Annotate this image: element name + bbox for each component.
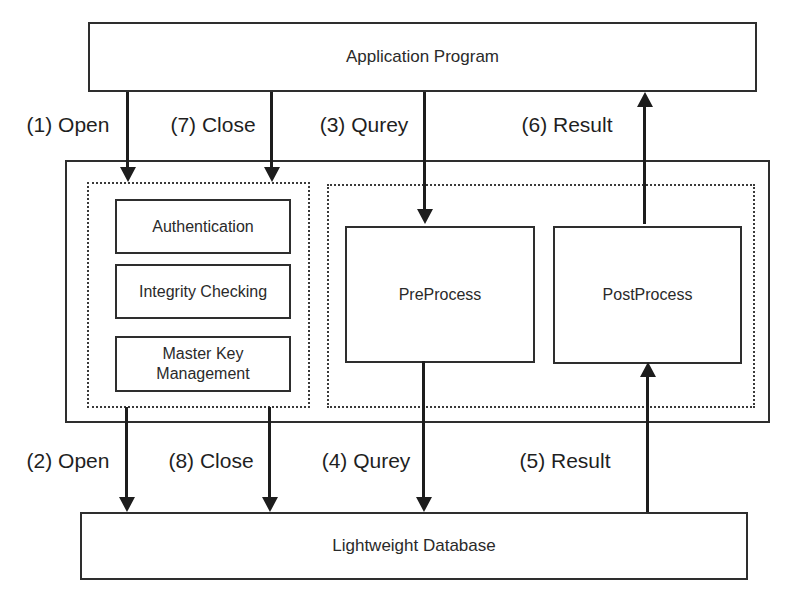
application-program-box: Application Program: [88, 22, 757, 92]
flow-label-open-2: (2) Open: [27, 449, 110, 473]
preprocess-label: PreProcess: [399, 285, 482, 305]
arrow-close-7-down-arrowhead-icon: [264, 167, 280, 182]
arrow-close-8-line: [268, 407, 271, 498]
lightweight-database-label: Lightweight Database: [332, 536, 496, 556]
postprocess-label: PostProcess: [603, 285, 693, 305]
arrow-close-7-line: [270, 92, 273, 168]
arrow-open-1-down-arrowhead-icon: [120, 167, 136, 182]
arrow-result-5-line: [646, 376, 649, 512]
master-key-management-label: Master Key Management: [125, 344, 281, 384]
arrow-open-1-line: [126, 92, 129, 168]
master-key-management-box: Master Key Management: [115, 336, 291, 392]
integrity-checking-label: Integrity Checking: [139, 282, 267, 302]
security-group-box: Authentication Integrity Checking Master…: [87, 182, 310, 408]
application-program-label: Application Program: [346, 47, 499, 67]
arrow-close-8-down-arrowhead-icon: [262, 497, 278, 512]
arrow-result-6-up-arrowhead-icon: [637, 92, 653, 107]
process-group-box: PreProcess PostProcess: [327, 184, 755, 408]
flow-label-result-6: (6) Result: [521, 113, 612, 137]
arrow-open-2-line: [125, 407, 128, 498]
arrow-result-5-up-arrowhead-icon: [640, 362, 656, 377]
flow-label-close-8: (8) Close: [168, 449, 253, 473]
lightweight-database-box: Lightweight Database: [80, 512, 748, 580]
flow-label-result-5: (5) Result: [519, 449, 610, 473]
arrow-qurey-4-line: [422, 361, 425, 498]
integrity-checking-box: Integrity Checking: [115, 264, 291, 319]
arrow-qurey-4-down-arrowhead-icon: [416, 497, 432, 512]
arrow-open-2-down-arrowhead-icon: [119, 497, 135, 512]
arrow-qurey-3-line: [423, 92, 426, 210]
preprocess-box: PreProcess: [345, 226, 535, 363]
postprocess-box: PostProcess: [553, 226, 742, 364]
authentication-label: Authentication: [152, 217, 253, 237]
flow-label-qurey-3: (3) Qurey: [320, 113, 409, 137]
authentication-box: Authentication: [115, 199, 291, 254]
flow-label-qurey-4: (4) Qurey: [322, 449, 411, 473]
flow-label-close-7: (7) Close: [170, 113, 255, 137]
architecture-diagram: Application Program Authentication Integ…: [0, 0, 789, 607]
arrow-qurey-3-down-arrowhead-icon: [417, 209, 433, 224]
flow-label-open-1: (1) Open: [27, 113, 110, 137]
arrow-result-6-line: [643, 106, 646, 224]
